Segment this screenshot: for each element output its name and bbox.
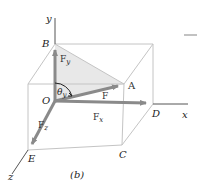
axes: [12, 18, 188, 174]
label-B: B: [41, 38, 49, 49]
label-A: A: [127, 80, 136, 91]
label-C: C: [119, 149, 127, 160]
label-Fx: Fx: [93, 112, 103, 124]
label-x-axis: x: [182, 109, 188, 120]
label-D: D: [151, 108, 160, 119]
label-y-axis: y: [45, 13, 52, 24]
label-z-axis: z: [7, 171, 14, 182]
label-F: F: [102, 91, 108, 101]
z-axis: [12, 150, 28, 174]
label-O: O: [42, 95, 50, 106]
figure-caption: (b): [70, 169, 84, 180]
vector-diagram: y x z B O A D E C F Fy Fx Fz θy (b): [0, 0, 198, 190]
label-E: E: [27, 153, 36, 164]
vector-Fx: [55, 101, 146, 103]
